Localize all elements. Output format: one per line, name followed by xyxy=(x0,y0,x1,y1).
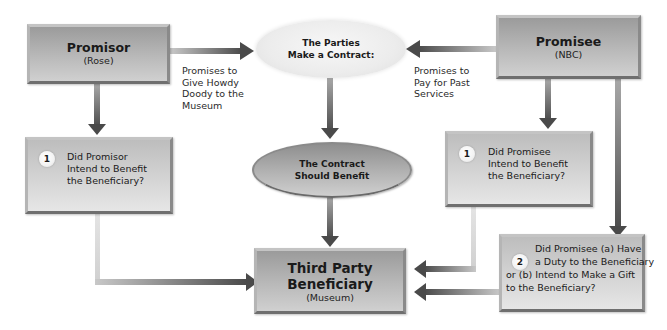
connector-promisee-question2-to-beneficiary xyxy=(414,283,500,301)
promisee-box: Promisee (NBC) xyxy=(496,15,641,79)
promisor-question-line3: the Beneficiary? xyxy=(67,175,147,187)
promisor-promise-line3: Doody to the xyxy=(182,88,244,100)
promisee-question2-line4: to the Beneficiary? xyxy=(506,282,596,294)
promisee-question1-line2: Intend to Benefit xyxy=(488,158,568,170)
contract-line2: Make a Contract: xyxy=(288,49,374,61)
arrow-promisor-to-question xyxy=(88,84,106,135)
arrow-contract-to-benefit xyxy=(321,78,339,139)
promisor-promise-line2: Give Howdy xyxy=(182,77,244,89)
promisee-subtitle: (NBC) xyxy=(499,49,638,61)
third-party-beneficiary-diagram: Promisor (Rose) Promisee (NBC) The Parti… xyxy=(0,0,667,330)
promisor-title: Promisor xyxy=(30,40,167,55)
arrow-promisor-to-contract xyxy=(170,42,254,60)
connector-promisee-question1-to-beneficiary xyxy=(414,207,476,278)
promisee-question1-line1: Did Promisee xyxy=(488,146,568,158)
promisor-question-line2: Intend to Benefit xyxy=(67,163,147,175)
promisor-subtitle: (Rose) xyxy=(30,55,167,67)
promisee-question2-box: 2 Did Promisee (a) Have a Duty to the Be… xyxy=(499,234,645,312)
third-party-beneficiary-box: Third Party Beneficiary (Museum) xyxy=(254,248,406,314)
promisee-promise-label: Promises to Pay for Past Services xyxy=(414,65,470,100)
promisee-question1-line3: the Beneficiary? xyxy=(488,170,568,182)
promisor-promise-label: Promises to Give Howdy Doody to the Muse… xyxy=(182,65,244,111)
promisor-question-box: 1 Did Promisor Intend to Benefit the Ben… xyxy=(25,137,173,214)
promisee-question2-line1: Did Promisee (a) Have xyxy=(535,243,641,255)
promisee-question2-line3: or (b) Intend to Make a Gift xyxy=(506,269,635,281)
contract-ellipse: The Parties Make a Contract: xyxy=(256,20,406,78)
step-number-badge: 1 xyxy=(39,151,55,167)
beneficiary-subtitle: (Museum) xyxy=(257,292,403,304)
promisor-question-line1: Did Promisor xyxy=(67,151,147,163)
beneficiary-line2: Beneficiary xyxy=(257,276,403,292)
connector-promisor-question-to-beneficiary xyxy=(95,213,258,291)
arrow-benefit-to-beneficiary xyxy=(321,197,339,247)
promisee-promise-line2: Pay for Past xyxy=(414,77,470,89)
beneficiary-line1: Third Party xyxy=(257,260,403,276)
benefit-line2: Should Benefit xyxy=(295,170,370,182)
promisor-box: Promisor (Rose) xyxy=(27,24,170,84)
promisee-title: Promisee xyxy=(499,34,638,49)
arrow-promisee-to-contract xyxy=(406,40,496,58)
arrow-promisee-to-question1 xyxy=(539,79,557,129)
step-number-badge: 1 xyxy=(459,146,475,162)
promisee-promise-line1: Promises to xyxy=(414,65,470,77)
promisor-promise-line4: Museum xyxy=(182,100,244,112)
promisee-question2-line2: a Duty to the Beneficiary xyxy=(535,256,654,268)
contract-line1: The Parties xyxy=(288,37,374,49)
promisor-promise-line1: Promises to xyxy=(182,65,244,77)
step-number-badge: 2 xyxy=(512,254,528,270)
promisee-promise-line3: Services xyxy=(414,88,470,100)
benefit-line1: The Contract xyxy=(295,158,370,170)
benefit-ellipse: The Contract Should Benefit xyxy=(252,142,412,198)
promisee-question1-box: 1 Did Promisee Intend to Benefit the Ben… xyxy=(445,131,593,207)
arrow-promisee-to-question2 xyxy=(609,79,627,237)
